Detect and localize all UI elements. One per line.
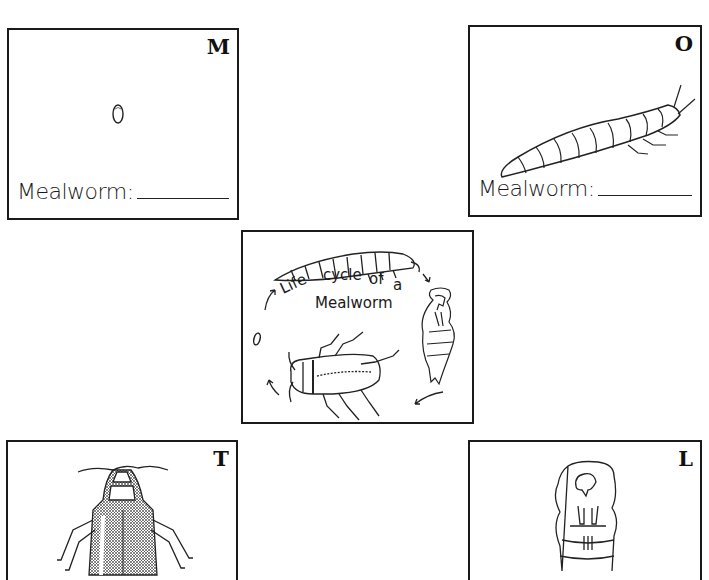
life-cycle-panel: Life cycle of a Mealworm (241, 230, 474, 424)
egg-icon (109, 100, 129, 130)
card-larva: O Mealworm: (468, 25, 702, 217)
card-egg: M Mealworm: (7, 28, 239, 220)
pupa-icon (548, 456, 628, 571)
label-row: Mealworm: (17, 179, 229, 204)
larva-icon (488, 57, 693, 182)
card-pupa: L (468, 440, 702, 580)
answer-blank[interactable] (598, 195, 692, 196)
title-life: Life (277, 270, 309, 298)
egg-icon (253, 332, 262, 345)
card-letter: T (213, 446, 229, 471)
label-row: Mealworm: (478, 176, 692, 201)
life-cycle-illustration: Life cycle of a Mealworm (243, 232, 471, 421)
title-of: of (369, 270, 384, 288)
card-letter: O (675, 31, 693, 56)
pupa-icon (422, 288, 454, 384)
title-cycle: cycle (323, 266, 362, 284)
card-beetle: T (6, 440, 238, 580)
beetle-icon (289, 332, 399, 420)
beetle-icon (53, 460, 203, 575)
label-text: Mealworm: (17, 179, 134, 204)
card-letter: M (207, 34, 230, 59)
answer-blank[interactable] (137, 198, 229, 199)
label-text: Mealworm: (478, 176, 595, 201)
card-letter: L (678, 446, 693, 471)
title-a: a (393, 276, 402, 294)
title-mealworm: Mealworm (315, 294, 393, 312)
